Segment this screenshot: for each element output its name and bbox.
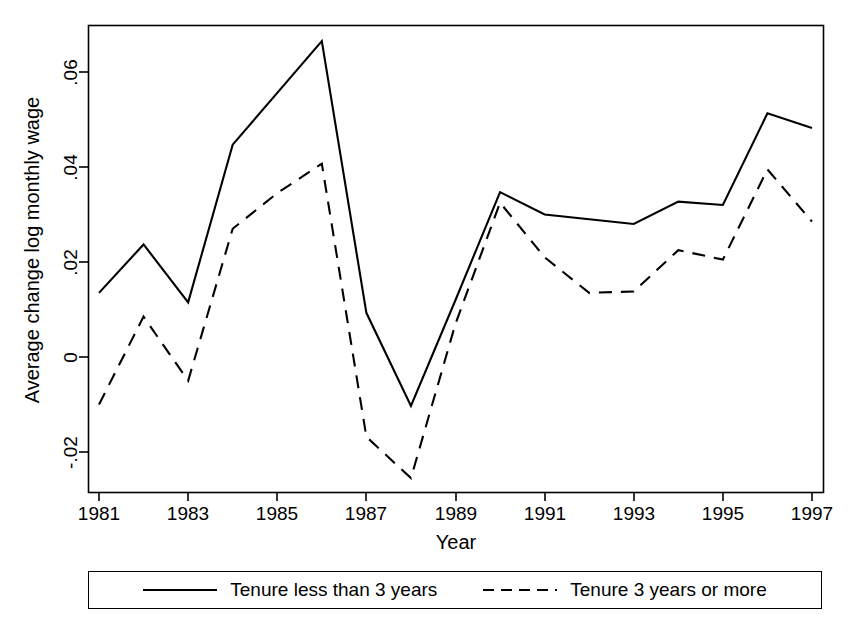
legend-entry-solid: Tenure less than 3 years bbox=[143, 580, 437, 600]
x-tick-label-1995: 1995 bbox=[688, 503, 758, 525]
x-tick-label-1987: 1987 bbox=[331, 503, 401, 525]
chart-figure: Average change log monthly wage .06 .04 … bbox=[0, 0, 859, 637]
y-tick-marks bbox=[79, 72, 88, 452]
x-tick-label-1991: 1991 bbox=[510, 503, 580, 525]
x-tick-label-1989: 1989 bbox=[421, 503, 491, 525]
x-tick-label-1983: 1983 bbox=[153, 503, 223, 525]
x-tick-label-1985: 1985 bbox=[242, 503, 312, 525]
legend-label-dashed: Tenure 3 years or more bbox=[570, 580, 766, 600]
legend-key-dashed-line-icon bbox=[483, 583, 557, 597]
line-series-tenure-less-than-3-years bbox=[99, 41, 812, 406]
x-tick-marks bbox=[99, 492, 812, 501]
x-axis-title: Year bbox=[88, 531, 824, 553]
legend-entry-dashed: Tenure 3 years or more bbox=[483, 580, 766, 600]
line-series-tenure-3-years-or-more bbox=[99, 164, 812, 478]
plot-frame bbox=[89, 26, 824, 493]
x-tick-label-1993: 1993 bbox=[599, 503, 669, 525]
chart-legend: Tenure less than 3 years Tenure 3 years … bbox=[88, 571, 822, 609]
x-tick-label-1981: 1981 bbox=[64, 503, 134, 525]
x-tick-label-1997: 1997 bbox=[777, 503, 847, 525]
legend-key-solid-line-icon bbox=[143, 583, 217, 597]
legend-label-solid: Tenure less than 3 years bbox=[230, 580, 437, 600]
